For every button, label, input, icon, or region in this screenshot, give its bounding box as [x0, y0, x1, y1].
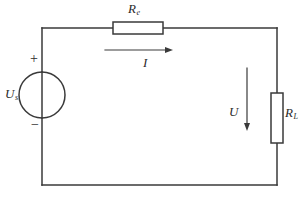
source-voltage-label: Us [5, 87, 18, 102]
polarity-plus-sign: + [30, 52, 38, 66]
load-resistor-label-symbol: R [285, 105, 293, 120]
load-resistor-symbol [271, 93, 283, 143]
source-voltage-label-symbol: U [5, 86, 14, 101]
polarity-minus-sign: − [31, 118, 39, 132]
load-resistor-label: RL [285, 106, 298, 121]
circuit-diagram: Re RL Us I U + − [0, 0, 300, 200]
source-voltage-label-subscript: s [14, 93, 18, 102]
voltage-arrow-head [244, 123, 250, 131]
current-label: I [143, 56, 147, 69]
series-resistor-label-subscript: e [136, 8, 140, 17]
series-resistor-label-symbol: R [128, 1, 136, 16]
circuit-schematic-svg [0, 0, 300, 200]
load-resistor-label-subscript: L [293, 112, 298, 121]
current-arrow-head [165, 47, 173, 53]
load-voltage-label: U [229, 105, 238, 118]
series-resistor-label: Re [128, 2, 140, 17]
series-resistor-symbol [113, 22, 163, 34]
